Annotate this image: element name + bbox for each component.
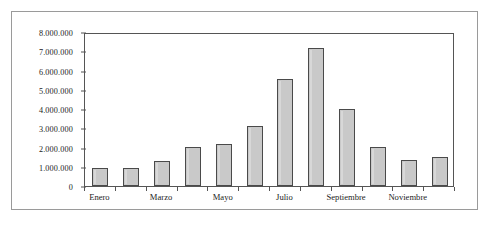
x-axis-tick-mark [362, 187, 363, 191]
x-axis-tick-mark [238, 187, 239, 191]
bar-highlight [218, 146, 220, 184]
bar-diciembre [432, 157, 448, 186]
x-axis-tick-label: Enero [89, 192, 110, 202]
x-axis-tick-label: Mayo [213, 192, 233, 202]
bar-julio [277, 79, 293, 186]
bar-highlight [125, 170, 127, 184]
y-axis-tick-label: 7.000.000 [39, 48, 73, 57]
y-axis-tick-label: 8.000.000 [39, 29, 73, 38]
bar-chart: 01.000.0002.000.0003.000.0004.000.0005.0… [12, 12, 479, 211]
bar-highlight [279, 81, 281, 184]
bar-highlight [249, 128, 251, 184]
x-axis-tick-label: Julio [276, 192, 293, 202]
y-axis-tick-mark [81, 167, 86, 168]
x-axis-tick-label: Noviembre [388, 192, 427, 202]
y-axis-tick-mark [81, 52, 86, 53]
bar-octubre [370, 147, 386, 186]
y-axis-tick-mark [81, 90, 86, 91]
bar-septiembre [339, 109, 355, 186]
y-axis-tick-label: 0 [69, 183, 73, 192]
bar-highlight [187, 149, 189, 184]
y-axis: 01.000.0002.000.0003.000.0004.000.0005.0… [12, 12, 84, 211]
y-axis-tick-label: 5.000.000 [39, 86, 73, 95]
bar-highlight [403, 162, 405, 184]
y-axis-tick-mark [81, 110, 86, 111]
bar-highlight [372, 149, 374, 184]
y-axis-tick-mark [81, 148, 86, 149]
bar-highlight [156, 163, 158, 184]
bar-mayo [216, 144, 232, 186]
x-axis-tick-mark [423, 187, 424, 191]
bar-noviembre [401, 160, 417, 186]
bar-highlight [341, 111, 343, 184]
x-axis-tick-mark [392, 187, 393, 191]
y-axis-tick-label: 1.000.000 [39, 163, 73, 172]
x-axis-tick-mark [115, 187, 116, 191]
bar-agosto [308, 48, 324, 186]
plot-area [84, 33, 454, 187]
y-axis-tick-label: 4.000.000 [39, 106, 73, 115]
x-axis: EneroMarzoMayoJulioSeptiembreNoviembre [84, 192, 454, 208]
figure-frame: 01.000.0002.000.0003.000.0004.000.0005.0… [11, 11, 478, 210]
bar-highlight [310, 50, 312, 184]
bar-highlight [94, 170, 96, 184]
x-axis-tick-mark [84, 187, 85, 191]
y-axis-tick-label: 2.000.000 [39, 144, 73, 153]
x-axis-tick-mark [454, 187, 455, 191]
y-axis-tick-label: 3.000.000 [39, 125, 73, 134]
x-axis-tick-mark [207, 187, 208, 191]
bar-abril [185, 147, 201, 186]
x-axis-tick-mark [269, 187, 270, 191]
y-axis-tick-mark [81, 129, 86, 130]
y-axis-tick-mark [81, 71, 86, 72]
x-axis-tick-mark [146, 187, 147, 191]
x-axis-tick-mark [177, 187, 178, 191]
x-axis-tick-mark [300, 187, 301, 191]
bars-layer [85, 34, 453, 186]
bar-enero [92, 168, 108, 186]
x-axis-tick-label: Marzo [150, 192, 172, 202]
bar-highlight [434, 159, 436, 184]
x-axis-tick-label: Septiembre [327, 192, 366, 202]
y-axis-tick-label: 6.000.000 [39, 67, 73, 76]
x-axis-tick-mark [331, 187, 332, 191]
bar-febrero [123, 168, 139, 186]
bar-junio [247, 126, 263, 186]
y-axis-tick-mark [81, 187, 86, 188]
y-axis-tick-mark [81, 33, 86, 34]
bar-marzo [154, 161, 170, 186]
